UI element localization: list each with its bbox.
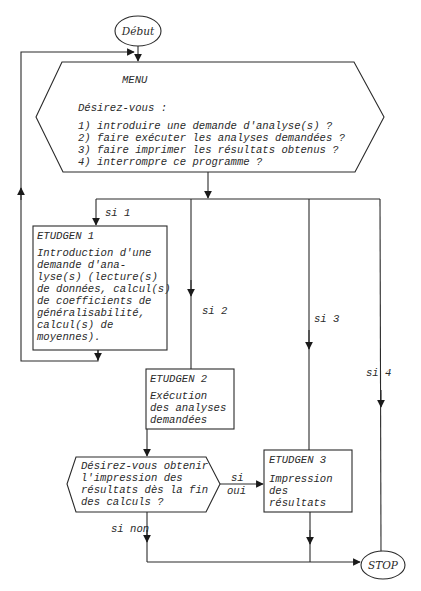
etudgen3-line: résultats: [269, 497, 326, 509]
stop-label: STOP: [368, 559, 399, 571]
stop-terminal: STOP: [361, 551, 405, 579]
menu-option-1: 1) introduire une demande d'analyse(s) ?: [78, 120, 333, 132]
label-si1: si 1: [105, 207, 130, 219]
etudgen2-line: Exécution: [150, 390, 207, 402]
etudgen3-node: ETUDGEN 3 Impression des résultats: [264, 450, 352, 512]
menu-node: MENU Désirez-vous : 1) introduire une de…: [36, 62, 384, 172]
etudgen1-line: généralisabilité,: [37, 307, 145, 319]
decision-line: l'impression des: [81, 472, 183, 484]
etudgen2-node: ETUDGEN 2 Exécution des analyses demandé…: [146, 369, 234, 429]
start-label: Début: [121, 25, 155, 37]
menu-prompt: Désirez-vous :: [78, 102, 167, 114]
etudgen3-line: Impression: [269, 473, 333, 485]
label-si-oui-oui: oui: [227, 485, 246, 497]
etudgen2-title: ETUDGEN 2: [150, 373, 207, 385]
decision-node: Désirez-vous obtenir l'impression des ré…: [67, 457, 220, 512]
menu-option-3: 3) faire imprimer les résultats obtenus …: [78, 144, 339, 156]
etudgen1-line: lyse(s) (lecture(s): [37, 271, 158, 283]
label-si2: si 2: [202, 305, 227, 317]
etudgen1-title: ETUDGEN 1: [37, 230, 94, 242]
etudgen1-line: moyennes).: [37, 331, 101, 343]
decision-line: des calculs ?: [81, 496, 164, 508]
etudgen2-line: des analyses: [150, 402, 226, 414]
etudgen1-line: de coefficients de: [37, 295, 151, 307]
label-si-non: si non: [111, 523, 149, 535]
etudgen1-line: calcul(s) de: [37, 319, 113, 331]
etudgen1-line: de données, calcul(s): [37, 283, 171, 295]
etudgen1-node: ETUDGEN 1 Introduction d'une demande d'a…: [33, 226, 171, 350]
menu-option-2: 2) faire exécuter les analyses demandées…: [78, 132, 346, 144]
etudgen1-line: demande d'ana-: [37, 259, 126, 271]
decision-line: Désirez-vous obtenir: [81, 460, 208, 472]
label-si-oui-si: si: [231, 472, 244, 484]
etudgen3-title: ETUDGEN 3: [269, 454, 326, 466]
label-si3: si 3: [314, 313, 339, 325]
flowchart: Début MENU Désirez-vous : 1) introduire …: [0, 0, 421, 591]
menu-option-4: 4) interrompre ce programme ?: [78, 156, 263, 168]
menu-title: MENU: [122, 74, 148, 86]
etudgen2-line: demandées: [150, 414, 207, 426]
decision-line: résultats dès la fin: [81, 484, 208, 496]
etudgen1-line: Introduction d'une: [37, 247, 151, 259]
label-si4: si 4: [366, 367, 391, 379]
etudgen3-line: des: [269, 485, 288, 497]
start-terminal: Début: [115, 16, 161, 46]
